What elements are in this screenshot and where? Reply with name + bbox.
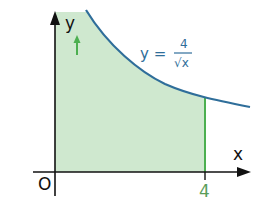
equation-lhs: y = [140, 45, 166, 63]
origin-label: O [38, 174, 51, 194]
equation-numerator: 4 [180, 37, 188, 51]
x-axis-label: x [233, 144, 243, 164]
shaded-region [55, 12, 205, 172]
x-axis-arrow-icon [237, 167, 251, 177]
graph: y x O 4 y = 4 √x [0, 0, 265, 214]
y-axis-label: y [65, 13, 75, 33]
x-tick-label-4: 4 [199, 181, 210, 201]
equation-denominator: √x [174, 56, 189, 70]
